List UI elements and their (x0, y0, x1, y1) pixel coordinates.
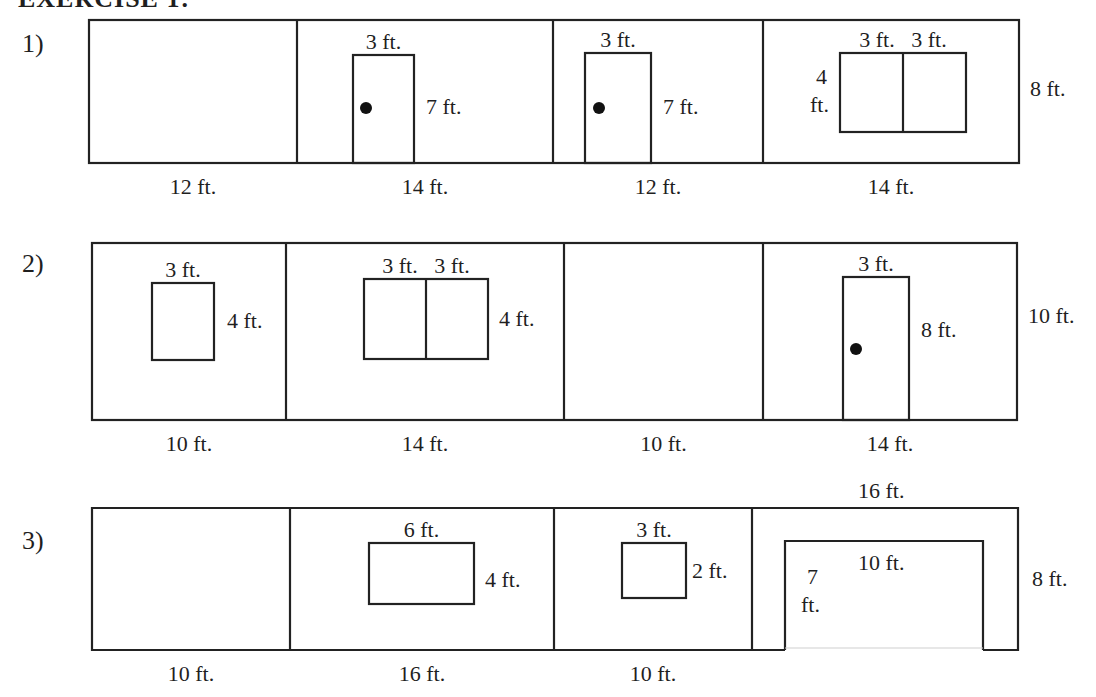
wall-section: 10 ft.3 ft.2 ft. (554, 508, 727, 686)
wall-width-label: 12 ft. (170, 174, 216, 199)
wall-section: 14 ft.3 ft.8 ft. (763, 243, 956, 456)
wall-section: 12 ft. (170, 174, 216, 199)
wall-width-label: 14 ft. (867, 431, 913, 456)
feature-width-label: 3 ft. 3 ft. (382, 253, 469, 278)
exercise-number: 2) (22, 249, 44, 278)
garage-width-label: 10 ft. (858, 550, 904, 575)
feature-height-label: 4 ft. (485, 567, 520, 592)
wall-section: 10 ft.3 ft.4 ft. (152, 257, 262, 456)
wall-width-label: 10 ft. (166, 431, 212, 456)
garage-door: 10 ft.7ft. (785, 541, 983, 650)
wall-width-label: 12 ft. (635, 174, 681, 199)
double-window: 3 ft. 3 ft.4ft. (810, 27, 966, 132)
window: 6 ft.4 ft. (369, 517, 520, 604)
feature-height-label: 7 ft. (663, 94, 698, 119)
wall-height-label: 8 ft. (1030, 76, 1065, 101)
wall-width-label: 14 ft. (868, 174, 914, 199)
feature-width-label: 3 ft. (165, 257, 200, 282)
wall-width-label: 16 ft. (399, 661, 445, 686)
wall-section: 16 ft.6 ft.4 ft. (290, 508, 520, 686)
wall-section: 10 ft. (168, 661, 214, 686)
wall-section: 10 ft. (564, 243, 687, 456)
feature-height-label: 4 ft. (499, 306, 534, 331)
feature-width-label: 3 ft. 3 ft. (859, 27, 946, 52)
exercise-number: 3) (22, 526, 44, 555)
wall-section: 14 ft.3 ft.7 ft. (297, 20, 461, 199)
double-window: 3 ft. 3 ft.4 ft. (364, 253, 534, 359)
door: 3 ft.7 ft. (353, 29, 461, 163)
wall-width-label: 10 ft. (630, 661, 676, 686)
wall-section: 14 ft.3 ft. 3 ft.4 ft. (286, 243, 534, 456)
wall-diagrams: 1)12 ft.14 ft.3 ft.7 ft.12 ft.3 ft.7 ft.… (0, 0, 1096, 697)
wall-width-label: 16 ft. (858, 478, 904, 503)
feature-width-label: 6 ft. (404, 517, 439, 542)
exercise-2: 2)10 ft.3 ft.4 ft.14 ft.3 ft. 3 ft.4 ft.… (22, 243, 1074, 456)
feature-width-label: 3 ft. (600, 27, 635, 52)
feature-height-label: 2 ft. (692, 558, 727, 583)
wall-height-label: 10 ft. (1028, 303, 1074, 328)
wall-width-label: 14 ft. (402, 174, 448, 199)
door-knob-icon (593, 102, 605, 114)
wall-section: 14 ft.3 ft. 3 ft.4ft. (763, 20, 966, 199)
wall-width-label: 10 ft. (640, 431, 686, 456)
wall-width-label: 14 ft. (402, 431, 448, 456)
feature-width-label: 3 ft. (366, 29, 401, 54)
door: 3 ft.7 ft. (585, 27, 698, 163)
feature-height-label: 4 ft. (227, 308, 262, 333)
door: 3 ft.8 ft. (843, 251, 956, 420)
feature-height-label: ft. (801, 592, 820, 617)
feature-height-label: 7 (807, 564, 818, 589)
feature-width-label: 3 ft. (858, 251, 893, 276)
door-knob-icon (360, 102, 372, 114)
feature-height-label: 8 ft. (921, 317, 956, 342)
feature-height-label: 4 (816, 64, 827, 89)
feature-height-label: 7 ft. (426, 94, 461, 119)
window: 3 ft.4 ft. (152, 257, 262, 360)
wall-section: 12 ft.3 ft.7 ft. (553, 20, 698, 199)
exercise-number: 1) (22, 29, 44, 58)
feature-width-label: 3 ft. (636, 517, 671, 542)
window: 3 ft.2 ft. (622, 517, 727, 598)
feature-height-label: ft. (810, 92, 829, 117)
door-knob-icon (850, 343, 862, 355)
wall-height-label: 8 ft. (1032, 566, 1067, 591)
exercise-1: 1)12 ft.14 ft.3 ft.7 ft.12 ft.3 ft.7 ft.… (22, 20, 1065, 199)
wall-section: 10 ft.7ft. (752, 508, 983, 650)
exercise-3: 3)10 ft.16 ft.6 ft.4 ft.10 ft.3 ft.2 ft.… (22, 478, 1067, 686)
wall-width-label: 10 ft. (168, 661, 214, 686)
